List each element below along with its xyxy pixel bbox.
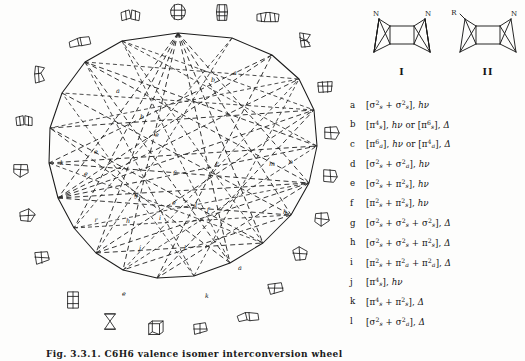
chord-label: b xyxy=(211,76,215,84)
chord-label: l xyxy=(184,244,186,252)
legend-key: f xyxy=(350,198,366,208)
legend-formula: [π2s + π2s], hν xyxy=(366,197,429,208)
molecule-sketch xyxy=(171,4,186,20)
chord-label: m xyxy=(269,160,275,168)
cage-bonds-I xyxy=(374,19,430,52)
chord-label: e xyxy=(122,290,126,298)
chord-label: e xyxy=(172,199,176,207)
molecule-sketch xyxy=(105,314,116,329)
molecule-sketch xyxy=(194,323,208,335)
molecule-sketch xyxy=(35,66,45,83)
figure-caption: Fig. 3.3.1. C6H6 valence isomer intercon… xyxy=(46,349,343,361)
chord-label: g xyxy=(134,191,138,199)
legend-formula: [σ2s + π2s], hν xyxy=(366,178,429,189)
molecule-sketch xyxy=(237,313,259,322)
legend-key: e xyxy=(350,178,366,188)
right-panel: N N I xyxy=(345,0,525,361)
chord-label: e xyxy=(155,131,159,139)
legend-row-l: l[σ2s + σ2a], Δ xyxy=(350,316,525,336)
legend-key: d xyxy=(350,159,366,169)
molecule-sketch xyxy=(216,5,227,21)
molecule-sketch xyxy=(121,10,140,21)
legend-formula: [σ2s + σ2s], hν xyxy=(366,99,429,110)
legend-formula: [π4s], hν xyxy=(366,276,403,287)
legend-formula: [π2s + π2a + π2a], Δ xyxy=(366,257,451,268)
structure-I: N N I xyxy=(359,4,445,92)
legend-row-j: j[π4s], hν xyxy=(350,276,525,296)
chord-label: i xyxy=(159,214,161,222)
molecule-sketch xyxy=(16,116,32,126)
atom-label-R: R xyxy=(451,9,457,17)
chord-label: l xyxy=(195,201,197,209)
legend-key: k xyxy=(350,296,366,306)
cage-bonds-II xyxy=(460,14,516,52)
structure-I-caption: I xyxy=(359,66,445,77)
molecule-sketch xyxy=(315,213,329,227)
chord-label: b xyxy=(140,113,144,121)
legend-row-f: f[π2s + π2s], hν xyxy=(350,197,525,217)
molecule-sketch xyxy=(149,321,163,335)
legend-key: a xyxy=(350,100,366,110)
chord-group xyxy=(49,33,317,278)
chord-label: a xyxy=(233,69,237,77)
atom-label-N: N xyxy=(511,10,517,18)
molecule-sketch xyxy=(318,82,332,93)
legend-key: h xyxy=(350,237,366,247)
molecule-sketch xyxy=(69,37,91,48)
legend-row-i: i[π2s + π2a + π2a], Δ xyxy=(350,257,525,277)
molecule-sketch xyxy=(20,209,35,222)
legend-key: c xyxy=(350,139,366,149)
molecule-sketch xyxy=(35,252,49,265)
legend-row-d: d[σ2s + σ2a], hν xyxy=(350,158,525,178)
interconversion-wheel-panel: abbaeekegcrmoelrhfhijlaek xyxy=(0,0,345,361)
chord-label: e xyxy=(94,148,98,156)
legend-row-h: h[σ2s + σ2s + π2s], Δ xyxy=(350,237,525,257)
chord-label: k xyxy=(60,159,64,167)
reaction-legend: a[σ2s + σ2s], hνb[π4s], hν or [π6s], Δc[… xyxy=(350,99,525,335)
molecule-sketch xyxy=(300,33,311,47)
chord-label: h xyxy=(126,217,130,225)
structure-I-drawing: N N xyxy=(359,4,445,74)
structure-row: N N I xyxy=(345,4,525,92)
legend-key: b xyxy=(350,119,366,129)
legend-formula: [σ2s + σ2s + π2s], Δ xyxy=(366,237,451,248)
chord-label: f xyxy=(206,206,211,214)
chord-label: c xyxy=(173,168,177,176)
molecule-sketch xyxy=(293,247,307,260)
molecule-sketch xyxy=(325,127,339,140)
wheel-diagram: abbaeekegcrmoelrhfhijlaek xyxy=(0,0,345,361)
atom-label-N-left: N xyxy=(373,10,379,18)
legend-row-c: c[π6a], hν or [π4a], Δ xyxy=(350,138,525,158)
legend-row-e: e[σ2s + π2s], hν xyxy=(350,178,525,198)
chord-label: k xyxy=(205,292,209,300)
legend-key: j xyxy=(350,277,366,287)
legend-formula: [π6a], hν or [π4a], Δ xyxy=(366,138,451,149)
legend-formula: [σ2s + σ2a], Δ xyxy=(366,316,425,327)
legend-key: g xyxy=(350,218,366,228)
chord-label: o xyxy=(289,158,293,166)
molecule-sketch xyxy=(68,292,79,308)
chord-label: r xyxy=(94,216,98,224)
legend-formula: [σ2s + σ2s + σ2s], Δ xyxy=(366,217,451,228)
legend-formula: [π4s], hν or [π6s], Δ xyxy=(366,119,450,130)
structure-II-drawing: R N xyxy=(445,4,525,74)
legend-formula: [π4s + π2s], Δ xyxy=(366,296,424,307)
legend-row-a: a[σ2s + σ2s], hν xyxy=(350,99,525,119)
chord-label: a xyxy=(238,264,242,272)
chord-label: a xyxy=(116,87,120,95)
molecule-sketch xyxy=(268,283,283,295)
chord-label: e xyxy=(84,170,88,178)
atom-label-N-right: N xyxy=(425,10,431,18)
legend-formula: [σ2s + σ2a], hν xyxy=(366,158,430,169)
legend-row-b: b[π4s], hν or [π6s], Δ xyxy=(350,119,525,139)
legend-row-k: k[π4s + π2s], Δ xyxy=(350,296,525,316)
molecule-sketch xyxy=(324,170,338,183)
legend-row-g: g[σ2s + σ2s + σ2s], Δ xyxy=(350,217,525,237)
structure-II: R N II xyxy=(445,4,525,92)
chord-label-group: abbaeekegcrmoelrhfhijlaek xyxy=(60,69,293,300)
structure-II-caption: II xyxy=(445,66,525,77)
legend-key: i xyxy=(350,257,366,267)
chord-label: h xyxy=(283,208,287,216)
molecule-sketch xyxy=(14,165,28,178)
molecule-sketch xyxy=(257,12,279,21)
